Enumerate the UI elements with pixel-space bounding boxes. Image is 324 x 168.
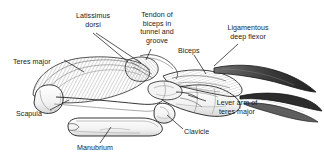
label-ligamentous-deep-flexor: Ligamentous deep flexor (213, 24, 283, 41)
structure-manubrium-bone (68, 118, 162, 136)
leader-ligamentous (214, 44, 238, 66)
label-teres-major: Teres major (13, 58, 63, 67)
label-biceps: Biceps (178, 47, 206, 56)
label-manubrium: Manubrium (77, 144, 125, 153)
label-tendon-of-biceps: Tendon of biceps in tunnel and groove (129, 11, 185, 45)
anatomical-figure: Latissimus dorsi Tendon of biceps in tun… (0, 0, 324, 168)
label-scapula: Scapula (16, 110, 50, 119)
label-latissimus-dorsi: Latissimus dorsi (67, 12, 119, 29)
label-clavicle: Clavicle (184, 128, 218, 137)
label-lever-arm-of-teres-major: Lever arm of teres major (208, 99, 266, 116)
structure-clavicle-bone (154, 103, 175, 123)
